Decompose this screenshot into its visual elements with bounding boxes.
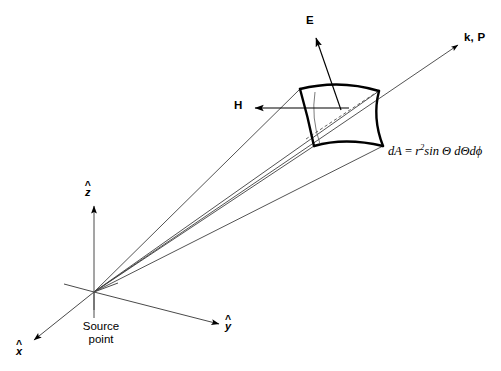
cone-ray-upper-right [94,91,379,292]
y-axis-label: ^ y [225,320,231,332]
source-point-line-2: point [71,333,131,346]
e-field-label: E [306,14,314,27]
z-axis-label: ^ z [85,186,91,198]
formula-sin: sin [424,144,439,158]
x-axis-label: ^ x [16,345,22,357]
wave-vector-ray [94,45,458,292]
y-axis-hat-wrapper: ^ y [225,320,231,332]
x-hat-glyph: ^ [16,340,22,350]
y-axis-back-stub [64,284,94,292]
area-element-patch [300,84,383,146]
formula-lhs: dA [388,144,402,158]
cone-ray-upper-left [94,89,300,292]
patch-edge-bottom [314,142,383,147]
z-axis-hat-wrapper: ^ z [85,186,91,198]
y-hat-glyph: ^ [225,315,231,325]
h-field-label: H [234,99,243,112]
patch-edge-right [376,91,383,146]
cone-ray-group [94,89,383,292]
formula-d-theta: dΘ [454,144,469,158]
formula-theta: Θ [442,144,451,158]
z-hat-glyph: ^ [85,181,91,191]
radiation-geometry-figure: E H k, P ^ z ^ y ^ x Source point dA = r… [0,0,501,371]
formula-d-phi: dϕ [469,144,482,158]
patch-edge-left [300,89,314,146]
cone-ray-lower-right [94,146,383,292]
e-field-arrow [316,38,341,110]
source-point-line-1: Source [71,320,131,333]
patch-edge-top [300,84,379,91]
x-axis-hat-wrapper: ^ x [16,345,22,357]
figure-canvas [0,0,501,371]
source-point-caption: Source point [71,320,131,345]
area-element-formula: dA = r2sin Θ dΘdϕ [388,145,482,159]
wave-vector-label: k, P [464,31,485,44]
